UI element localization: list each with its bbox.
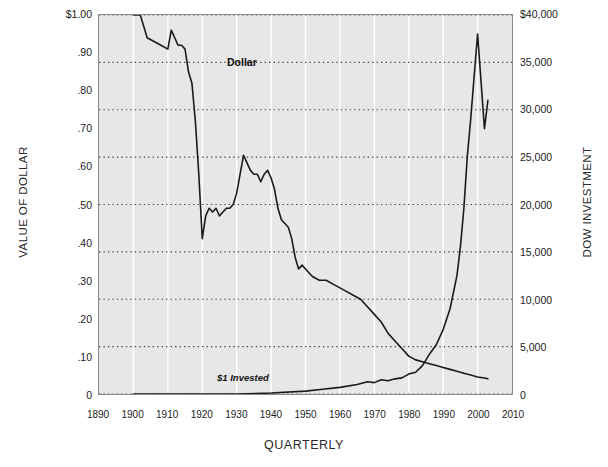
x-tick-label: 2010: [493, 409, 533, 420]
y-tick-label-left: $1.00: [40, 8, 92, 20]
y-tick-label-right: 0: [520, 389, 582, 401]
plot-svg: [99, 15, 512, 394]
y-tick-label-left: .70: [40, 122, 92, 134]
dollar-series-line: [133, 15, 487, 379]
y-tick-label-right: 20,000: [520, 199, 582, 211]
y-tick-label-right: 35,000: [520, 56, 582, 68]
y-axis-title-right: DOW INVESTMENT: [581, 117, 593, 287]
dow-series-line: [133, 34, 487, 394]
y-tick-label-right: 5,000: [520, 341, 582, 353]
y-tick-label-right: 25,000: [520, 151, 582, 163]
y-axis-title-left: VALUE OF DOLLAR: [17, 117, 29, 287]
invested-annotation-label: $1 Invested: [217, 372, 269, 383]
y-tick-label-right: 30,000: [520, 103, 582, 115]
y-tick-label-left: .20: [40, 313, 92, 325]
y-tick-label-left: .80: [40, 84, 92, 96]
y-tick-label-right: 10,000: [520, 294, 582, 306]
y-tick-label-right: 15,000: [520, 246, 582, 258]
y-tick-label-left: .60: [40, 160, 92, 172]
chart-container: VALUE OF DOLLAR DOW INVESTMENT QUARTERLY…: [0, 0, 608, 467]
y-tick-label-left: .90: [40, 46, 92, 58]
y-tick-label-left: .30: [40, 275, 92, 287]
y-tick-label-left: 0: [40, 389, 92, 401]
y-tick-label-right: $40,000: [520, 8, 582, 20]
dollar-series-label: Dollar: [227, 56, 257, 68]
plot-area: Dollar Dow $1 Invested: [98, 14, 513, 395]
y-tick-label-left: .40: [40, 237, 92, 249]
y-tick-label-left: .10: [40, 351, 92, 363]
y-tick-label-left: .50: [40, 199, 92, 211]
x-axis-title: QUARTERLY: [0, 438, 608, 452]
